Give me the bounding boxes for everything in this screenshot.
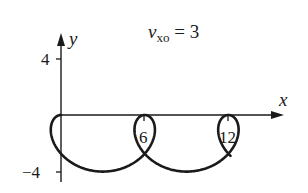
y-tick-label-neg4: −4: [22, 163, 41, 182]
chart-title: vxo = 3: [148, 21, 199, 45]
x-tick-label-6: 6: [139, 128, 148, 147]
y-tick-label-4: 4: [41, 50, 50, 69]
title-subscript: xo: [156, 30, 169, 45]
title-rest: = 3: [169, 21, 199, 42]
x-axis-arrow-icon: [271, 111, 284, 119]
y-axis-arrow-icon: [57, 33, 65, 46]
x-axis-label: x: [278, 89, 288, 110]
chart-canvas: 4 −4 6 12 y x vxo = 3: [0, 0, 308, 193]
y-axis-label: y: [67, 28, 78, 49]
